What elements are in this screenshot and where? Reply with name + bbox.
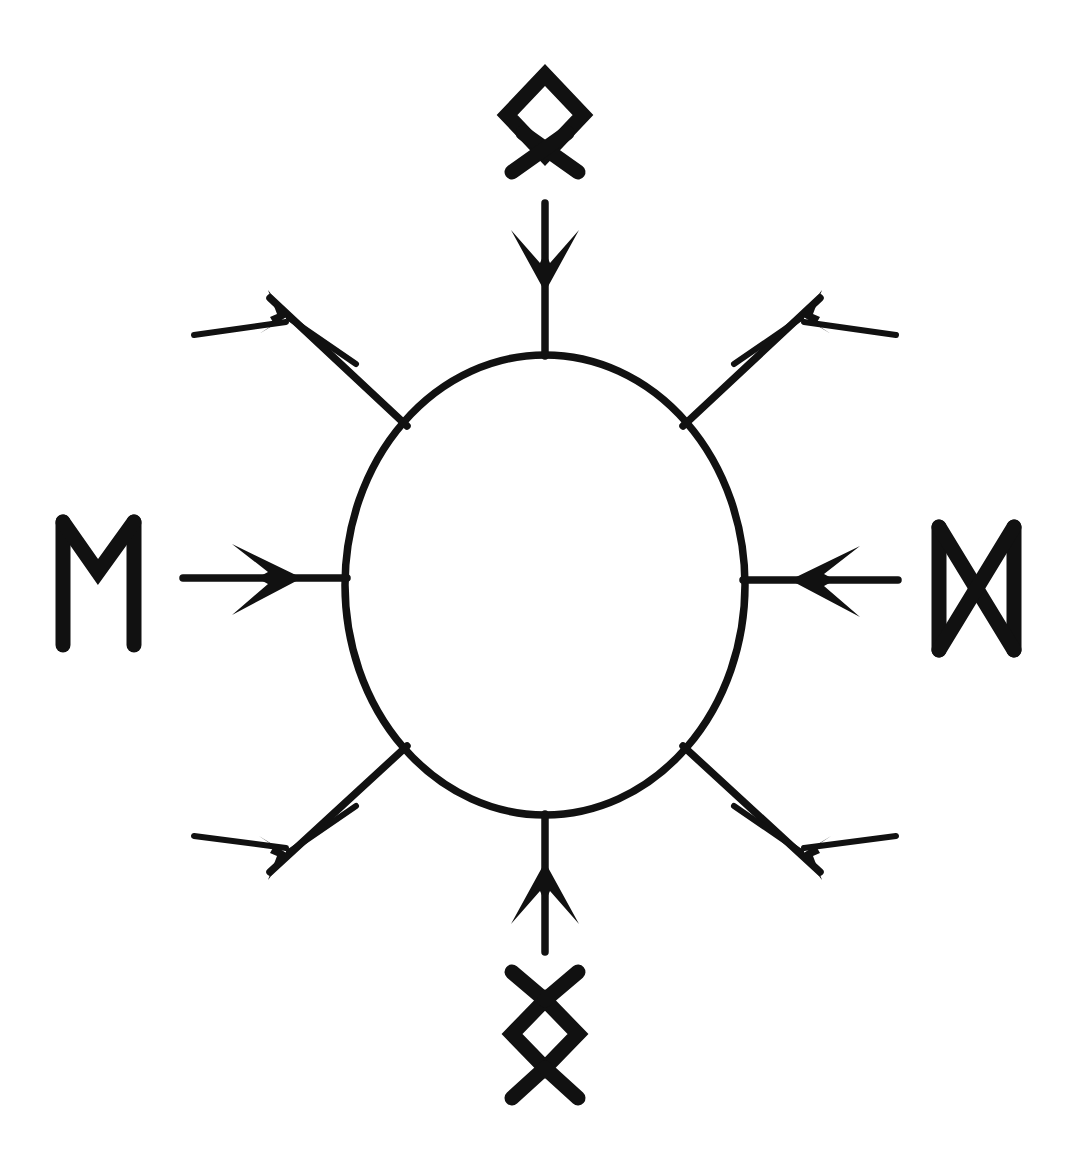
runic-diagram: Othala Ehwaz Dagaz Ingwaz bbox=[0, 0, 1080, 1160]
figure-root: Othala Ehwaz Dagaz Ingwaz bbox=[0, 0, 1080, 1160]
rune-bottom-ingwaz bbox=[512, 972, 578, 1098]
rune-right-label: Dagaz bbox=[975, 499, 978, 500]
arrow-upper-left-barb-upper bbox=[289, 318, 356, 364]
rune-ingwaz-top-leg-right bbox=[545, 972, 578, 1000]
rune-top-othala bbox=[507, 75, 583, 172]
rune-top-label: Othala bbox=[544, 38, 547, 40]
arrow-lower-left-barb-upper bbox=[194, 836, 286, 848]
arrow-upper-right-barb-lower bbox=[804, 322, 896, 335]
arrow-right bbox=[743, 546, 898, 617]
arrow-upper-right bbox=[683, 290, 896, 426]
rune-right-dagaz bbox=[939, 527, 1014, 650]
arrow-lower-left bbox=[194, 746, 407, 880]
arrow-upper-left bbox=[194, 290, 407, 426]
arrow-upper-right-barb-upper bbox=[734, 318, 801, 364]
arrow-lower-right bbox=[683, 746, 896, 880]
arrow-upper-left-barb-lower bbox=[194, 322, 286, 335]
rune-ingwaz-bottom-leg-right bbox=[545, 1068, 578, 1098]
rune-ehwaz-vee bbox=[63, 522, 134, 572]
arrow-lower-left-barb-lower bbox=[289, 806, 356, 852]
arrow-lower-right-barb-upper bbox=[804, 836, 896, 848]
rune-ingwaz-diamond bbox=[512, 1000, 578, 1068]
arrow-lower-right-barb-lower bbox=[734, 806, 801, 852]
rune-bottom-label: Ingwaz bbox=[543, 1139, 547, 1140]
rune-left-label: Ehwaz bbox=[96, 499, 100, 500]
arrow-left bbox=[183, 544, 347, 615]
arrow-bottom bbox=[511, 814, 579, 952]
rune-left-ehwaz bbox=[63, 522, 134, 645]
arrow-top bbox=[511, 203, 579, 356]
